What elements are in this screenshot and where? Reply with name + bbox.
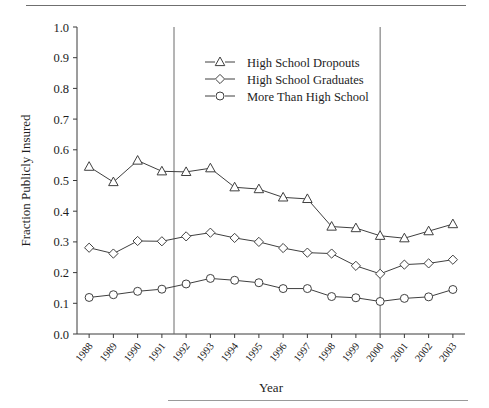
y-tick-label: 0.2 (53, 266, 69, 280)
data-point (351, 261, 360, 270)
data-point (400, 294, 408, 302)
y-tick-label: 0.6 (53, 143, 69, 157)
data-point (449, 285, 457, 293)
data-point (230, 182, 240, 191)
x-tick-label: 1989 (97, 340, 119, 363)
data-point (448, 219, 458, 228)
y-tick-label: 0.8 (53, 82, 69, 96)
x-tick-label: 2001 (388, 340, 410, 363)
data-point (376, 269, 385, 278)
data-point (327, 249, 336, 258)
data-point (182, 280, 190, 288)
data-point (255, 279, 263, 287)
data-point (133, 236, 142, 245)
data-point (448, 255, 457, 264)
data-point (133, 156, 143, 165)
x-tick-label: 1992 (170, 340, 192, 363)
data-point (424, 259, 433, 268)
data-point (303, 285, 311, 293)
data-point (84, 162, 94, 171)
data-point (206, 163, 216, 172)
data-point (254, 237, 263, 246)
x-tick-label: 1991 (146, 340, 168, 363)
x-tick-label: 1999 (340, 340, 362, 363)
y-tick-label: 0.7 (53, 113, 69, 127)
data-point (182, 232, 191, 241)
x-axis-title: Year (259, 380, 284, 395)
data-point (279, 243, 288, 252)
y-tick-label: 0.5 (53, 174, 69, 188)
data-point (85, 293, 93, 301)
x-tick-label: 1990 (122, 340, 144, 363)
y-tick-label: 1.0 (53, 21, 69, 35)
data-point (328, 293, 336, 301)
y-tick-label: 0.1 (53, 297, 69, 311)
data-point (157, 166, 167, 175)
line-chart: 0.00.10.20.30.40.50.60.70.80.91.0Fractio… (0, 0, 489, 408)
legend-marker-diamond (215, 74, 224, 83)
x-tick-label: 1998 (316, 340, 338, 363)
legend-marker-triangle (215, 57, 225, 66)
x-tick-label: 1988 (73, 340, 95, 363)
x-tick-label: 2000 (364, 340, 386, 363)
data-point (376, 297, 384, 305)
series-line-0 (89, 161, 453, 239)
x-tick-label: 1995 (243, 340, 265, 363)
data-point (425, 293, 433, 301)
data-point (206, 274, 214, 282)
data-point (231, 276, 239, 284)
data-point (85, 243, 94, 252)
data-point (157, 237, 166, 246)
data-point (109, 177, 119, 186)
legend-label-1: High School Graduates (247, 73, 364, 87)
data-point (279, 285, 287, 293)
x-tick-label: 2002 (413, 340, 435, 363)
legend-label-2: More Than High School (247, 90, 369, 104)
data-point (303, 248, 312, 257)
x-tick-label: 2003 (437, 340, 459, 363)
series-line-1 (89, 233, 453, 274)
legend-label-0: High School Dropouts (247, 56, 360, 70)
y-tick-label: 0.0 (53, 328, 69, 342)
y-tick-label: 0.4 (53, 205, 69, 219)
data-point (230, 233, 239, 242)
y-tick-label: 0.9 (53, 51, 69, 65)
x-tick-label: 1997 (291, 340, 313, 363)
y-axis-title: Fraction Publicly Insured (18, 114, 33, 247)
series-line-2 (89, 278, 453, 301)
data-point (134, 287, 142, 295)
data-point (158, 285, 166, 293)
y-tick-label: 0.3 (53, 235, 69, 249)
figure-page: 0.00.10.20.30.40.50.60.70.80.91.0Fractio… (0, 0, 489, 408)
data-point (206, 228, 215, 237)
x-tick-label: 1993 (194, 340, 216, 363)
legend-marker-circle (216, 92, 224, 100)
data-point (109, 291, 117, 299)
data-point (352, 294, 360, 302)
data-point (109, 249, 118, 258)
data-point (400, 260, 409, 269)
x-tick-label: 1994 (219, 340, 241, 364)
x-tick-label: 1996 (267, 340, 289, 363)
